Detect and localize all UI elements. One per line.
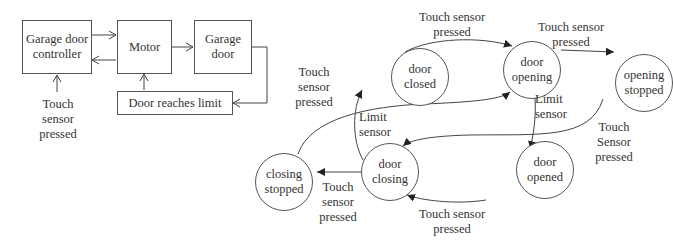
- motor-label: Motor: [129, 40, 160, 55]
- label-closingstopped-to-opening: Touch sensor pressed: [290, 65, 338, 110]
- label-closed-to-opening: Touch sensor pressed: [406, 10, 498, 40]
- transition-opened-to-closing: [407, 195, 486, 202]
- state-label: door opened: [523, 155, 567, 185]
- state-label: door closing: [368, 157, 412, 187]
- input-label: Touch sensor pressed: [30, 97, 86, 142]
- label-opening-to-opened: Limit sensor: [535, 92, 575, 122]
- controller-box: Garage door controller: [22, 20, 92, 74]
- limit-label: Door reaches limit: [128, 96, 221, 111]
- transition-opening-to-stopped: [561, 50, 614, 52]
- garage-door-box: Garage door: [194, 20, 252, 74]
- state-label: door opening: [509, 55, 555, 85]
- motor-box: Motor: [117, 20, 172, 74]
- state-label: door closed: [400, 62, 440, 92]
- label-closing-to-closed: Limit sensor: [359, 110, 399, 140]
- state-door-closing: door closing: [361, 143, 419, 201]
- label-opening-to-stopped: Touch sensor pressed: [525, 20, 617, 50]
- state-door-closed: door closed: [391, 48, 449, 106]
- label-opened-to-closing: Touch sensor pressed: [407, 207, 497, 237]
- state-closing-stopped: closing stopped: [255, 153, 313, 211]
- state-opening-stopped: opening stopped: [615, 54, 673, 112]
- controller-label: Garage door controller: [23, 32, 91, 62]
- limit-box: Door reaches limit: [117, 91, 233, 115]
- state-label: opening stopped: [620, 68, 668, 98]
- garage-door-label: Garage door: [195, 32, 251, 62]
- label-closing-to-closingstopped: Touch sensor pressed: [314, 180, 362, 225]
- state-label: closing stopped: [260, 167, 308, 197]
- label-stopped-to-closing: Touch Sensor pressed: [584, 120, 644, 165]
- state-door-opened: door opened: [516, 141, 574, 199]
